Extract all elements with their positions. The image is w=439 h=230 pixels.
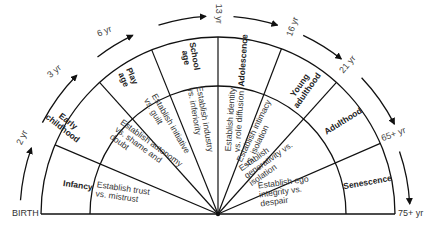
end-age-label: 75+ yr (398, 209, 423, 218)
age-arrow (159, 16, 206, 25)
birth-label: BIRTH (12, 209, 39, 218)
age-marker-label: 13 yr (213, 3, 222, 23)
stage-name-school-age: Schoolage (179, 41, 201, 72)
age-arrow (400, 152, 410, 205)
psychosocial-stages-diagram: BIRTH 75+ yr 2 yr3 yr6 yr13 yr16 yr21 yr… (0, 0, 439, 230)
center-point (216, 212, 220, 216)
age-arrow (234, 17, 278, 26)
age-arrow (98, 35, 133, 57)
age-arrow (21, 148, 32, 200)
age-arrow (303, 35, 341, 59)
